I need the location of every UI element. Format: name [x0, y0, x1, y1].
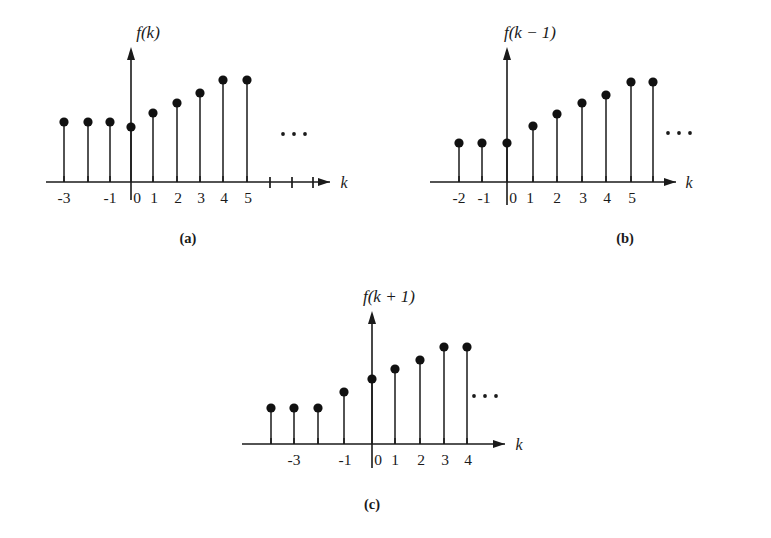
panel-a-tick-label-4: 4 — [220, 189, 228, 206]
panel-b-sample-dot — [528, 121, 537, 130]
panel-b-stems — [454, 77, 657, 182]
panel-c-tick-label-4: 4 — [464, 451, 472, 468]
panel-a-sample-dot — [172, 98, 181, 107]
panel-b: -2 -1 0 1 2 3 4 5 k f(k − 1) (b) — [430, 23, 693, 247]
panel-b-sample-dot — [601, 90, 610, 99]
panel-b-sample-dot — [552, 109, 561, 118]
panel-c-tick-label-1: 1 — [391, 451, 399, 468]
panel-b-sample-dot — [454, 138, 463, 147]
panel-b-y-axis-arrowhead — [503, 47, 511, 60]
panel-c-tick-label-m3: -3 — [288, 451, 301, 468]
panel-b-sample-dot — [577, 98, 586, 107]
panel-b-tick-label-m1: -1 — [478, 189, 491, 206]
panel-a-sample-dot — [83, 117, 92, 126]
panel-a-sample-dot — [126, 122, 135, 131]
panel-b-title: f(k − 1) — [504, 23, 556, 42]
panel-b-sample-dot — [626, 77, 635, 86]
panel-b-tick-label-5: 5 — [628, 189, 636, 206]
panel-a-sample-dot — [105, 117, 114, 126]
panel-a-title: f(k) — [136, 23, 160, 42]
panel-b-sample-dot — [477, 138, 486, 147]
panel-c-title: f(k + 1) — [363, 287, 415, 306]
panel-a-sample-dot — [218, 75, 227, 84]
panel-b-ticks — [459, 176, 653, 182]
panel-a-sample-dot — [195, 88, 204, 97]
panel-c-stems — [266, 342, 471, 444]
panel-a-tick-label-m3: -3 — [58, 189, 71, 206]
panel-c-x-axis-arrowhead — [493, 440, 505, 448]
panel-c-sample-dot — [367, 374, 376, 383]
panel-b-sample-dot — [502, 138, 511, 147]
panel-a-tick-label-1: 1 — [150, 189, 158, 206]
panel-a-sample-dot — [148, 108, 157, 117]
panel-b-x-axis-label: k — [685, 174, 693, 191]
panel-a-x-axis-arrowhead — [318, 178, 330, 186]
panel-b-tick-label-0: 0 — [509, 189, 517, 206]
panel-b-tag: (b) — [616, 230, 634, 247]
panel-a-sample-dot — [242, 75, 251, 84]
panel-b-tick-label-3: 3 — [579, 189, 587, 206]
panel-a-x-axis-label: k — [340, 174, 348, 191]
panel-c-sample-dot — [289, 403, 298, 412]
panel-a-stems — [59, 75, 251, 182]
panel-c-sample-dot — [390, 364, 399, 373]
panel-b-x-axis-arrowhead — [664, 178, 676, 186]
panel-a: -3 -1 0 1 2 3 4 5 k f(k) (a) — [46, 23, 348, 247]
panel-c-sample-dot — [462, 342, 471, 351]
panel-b-tick-label-1: 1 — [526, 189, 534, 206]
panel-c-tick-label-2: 2 — [417, 451, 425, 468]
panel-c-ticks — [271, 438, 467, 444]
panel-a-tick-label-5: 5 — [244, 189, 252, 206]
panel-a-tick-label-2: 2 — [174, 189, 182, 206]
panel-c-tag: (c) — [364, 496, 380, 513]
panel-c-tick-label-0: 0 — [374, 451, 382, 468]
panel-c-sample-dot — [313, 403, 322, 412]
panel-c-tick-label-3: 3 — [441, 451, 449, 468]
panel-a-tag: (a) — [180, 230, 197, 247]
panel-a-tick-label-3: 3 — [197, 189, 205, 206]
panel-a-tick-label-m1: -1 — [104, 189, 117, 206]
panel-b-sample-dot — [648, 77, 657, 86]
panel-c: -3 -1 0 1 2 3 4 k f(k + 1) (c) — [242, 287, 523, 513]
panel-c-sample-dot — [439, 342, 448, 351]
panel-a-tick-label-0: 0 — [133, 189, 141, 206]
panel-b-ellipsis — [666, 131, 692, 135]
panel-c-sample-dot — [415, 355, 424, 364]
panel-b-tick-label-4: 4 — [603, 189, 611, 206]
panel-c-sample-dot — [339, 387, 348, 396]
panel-b-tick-label-m2: -2 — [453, 189, 466, 206]
figure-container: -3 -1 0 1 2 3 4 5 k f(k) (a) — [0, 0, 771, 538]
panel-b-tick-label-2: 2 — [553, 189, 561, 206]
panel-a-sample-dot — [59, 117, 68, 126]
panel-c-x-axis-label: k — [515, 436, 523, 453]
panel-a-ellipsis — [281, 132, 307, 136]
panel-c-ellipsis — [472, 394, 498, 398]
signal-shift-figure: -3 -1 0 1 2 3 4 5 k f(k) (a) — [0, 0, 771, 538]
panel-a-y-axis-arrowhead — [127, 47, 135, 60]
panel-c-sample-dot — [266, 403, 275, 412]
panel-c-y-axis-arrowhead — [368, 311, 376, 324]
panel-c-tick-label-m1: -1 — [339, 451, 352, 468]
